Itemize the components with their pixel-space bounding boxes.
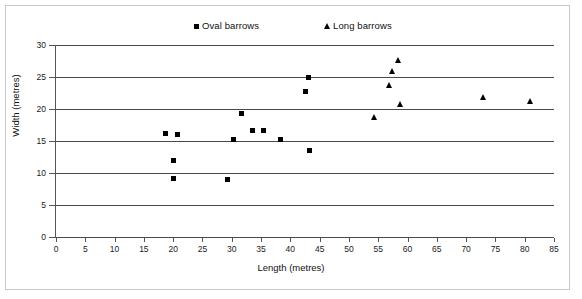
x-tick-label-75: 75: [484, 245, 506, 254]
y-tick-label-15: 15: [20, 137, 46, 146]
x-tick-label-10: 10: [104, 245, 126, 254]
x-tick-20: [173, 238, 174, 242]
x-tick-25: [202, 238, 203, 242]
data-point-long-barrows: [386, 82, 392, 88]
x-tick-label-0: 0: [45, 245, 67, 254]
data-point-oval-barrows: [163, 131, 168, 136]
x-tick-label-45: 45: [309, 245, 331, 254]
plot-area: [56, 45, 554, 237]
y-tick-label-10: 10: [20, 169, 46, 178]
data-point-long-barrows: [371, 114, 377, 120]
x-tick-55: [378, 238, 379, 242]
y-tick-label-25: 25: [20, 73, 46, 82]
gridline-y-30: [56, 45, 554, 46]
x-axis-line: [56, 237, 554, 238]
y-tick-10: [49, 173, 55, 174]
x-tick-70: [466, 238, 467, 242]
data-point-oval-barrows: [261, 128, 266, 133]
data-point-oval-barrows: [307, 148, 312, 153]
y-tick-label-30: 30: [20, 41, 46, 50]
x-tick-label-35: 35: [250, 245, 272, 254]
x-tick-40: [290, 238, 291, 242]
y-tick-label-0: 0: [20, 233, 46, 242]
data-point-long-barrows: [395, 57, 401, 63]
x-tick-30: [232, 238, 233, 242]
data-point-oval-barrows: [171, 176, 176, 181]
x-tick-label-65: 65: [426, 245, 448, 254]
gridline-y-15: [56, 141, 554, 142]
chart-screenshot: Oval barrows Long barrows 051015202530 0…: [0, 0, 582, 299]
legend-entry-long-barrows: Long barrows: [321, 17, 392, 33]
triangle-marker-icon: [321, 21, 333, 29]
data-point-oval-barrows: [250, 128, 255, 133]
data-point-oval-barrows: [278, 137, 283, 142]
x-tick-label-40: 40: [279, 245, 301, 254]
data-point-oval-barrows: [239, 111, 244, 116]
x-tick-label-55: 55: [367, 245, 389, 254]
x-tick-45: [320, 238, 321, 242]
x-tick-35: [261, 238, 262, 242]
data-point-oval-barrows: [175, 132, 180, 137]
y-tick-20: [49, 109, 55, 110]
x-tick-60: [408, 238, 409, 242]
x-axis-title: Length (metres): [0, 262, 582, 273]
y-tick-25: [49, 77, 55, 78]
x-tick-5: [85, 238, 86, 242]
x-tick-label-30: 30: [221, 245, 243, 254]
x-tick-label-5: 5: [74, 245, 96, 254]
y-tick-5: [49, 205, 55, 206]
chart-legend: Oval barrows Long barrows: [190, 17, 450, 33]
data-point-long-barrows: [397, 101, 403, 107]
x-tick-0: [56, 238, 57, 242]
x-tick-75: [495, 238, 496, 242]
square-marker-icon: [190, 21, 202, 29]
data-point-long-barrows: [527, 98, 533, 104]
x-tick-label-85: 85: [543, 245, 565, 254]
data-point-oval-barrows: [303, 89, 308, 94]
x-tick-50: [349, 238, 350, 242]
legend-entry-oval-barrows: Oval barrows: [190, 17, 259, 33]
data-point-oval-barrows: [306, 75, 311, 80]
x-tick-label-80: 80: [514, 245, 536, 254]
x-tick-label-15: 15: [133, 245, 155, 254]
y-tick-30: [49, 45, 55, 46]
data-point-long-barrows: [389, 68, 395, 74]
x-tick-label-60: 60: [397, 245, 419, 254]
x-tick-10: [115, 238, 116, 242]
gridline-y-10: [56, 173, 554, 174]
x-tick-15: [144, 238, 145, 242]
data-point-oval-barrows: [225, 177, 230, 182]
data-point-oval-barrows: [171, 158, 176, 163]
x-tick-label-20: 20: [162, 245, 184, 254]
x-tick-65: [437, 238, 438, 242]
y-tick-15: [49, 141, 55, 142]
y-axis-title: Width (metres): [10, 51, 21, 161]
y-tick-label-20: 20: [20, 105, 46, 114]
y-tick-label-5: 5: [20, 201, 46, 210]
data-point-oval-barrows: [231, 137, 236, 142]
x-tick-label-25: 25: [191, 245, 213, 254]
x-tick-label-50: 50: [338, 245, 360, 254]
legend-label-oval-barrows: Oval barrows: [202, 20, 259, 31]
x-tick-85: [554, 238, 555, 242]
data-point-long-barrows: [480, 94, 486, 100]
gridline-y-25: [56, 77, 554, 78]
legend-label-long-barrows: Long barrows: [333, 20, 392, 31]
y-tick-0: [49, 237, 55, 238]
x-tick-80: [525, 238, 526, 242]
gridline-y-20: [56, 109, 554, 110]
x-tick-label-70: 70: [455, 245, 477, 254]
gridline-y-5: [56, 205, 554, 206]
